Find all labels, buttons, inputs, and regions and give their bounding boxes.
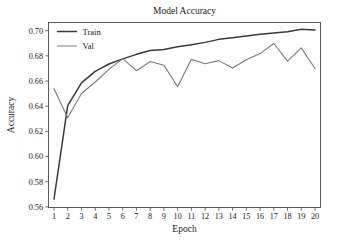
y-tick-label: 0.68: [29, 52, 43, 61]
y-tick-label: 0.64: [29, 102, 43, 111]
legend-label-val: Val: [83, 41, 95, 51]
x-tick-label: 1: [52, 212, 56, 221]
y-tick-label: 0.60: [29, 152, 43, 161]
y-tick-label: 0.66: [29, 77, 43, 86]
x-tick-label: 18: [283, 212, 291, 221]
series-line-train: [54, 29, 315, 199]
x-tick-label: 17: [270, 212, 278, 221]
x-tick-label: 14: [228, 212, 236, 221]
y-tick-label: 0.62: [29, 127, 43, 136]
x-tick-label: 7: [134, 212, 138, 221]
x-tick-label: 15: [242, 212, 250, 221]
x-tick-label: 11: [187, 212, 195, 221]
x-axis: 1234567891011121314151617181920: [52, 208, 319, 222]
legend: TrainVal: [58, 27, 102, 52]
x-tick-label: 3: [79, 212, 83, 221]
x-tick-label: 10: [174, 212, 182, 221]
legend-label-train: Train: [83, 27, 102, 37]
chart-title: Model Accuracy: [153, 6, 216, 16]
x-tick-label: 5: [107, 212, 111, 221]
x-tick-label: 2: [66, 212, 70, 221]
x-tick-label: 12: [201, 212, 209, 221]
y-axis: 0.560.580.600.620.640.660.680.70: [29, 27, 49, 212]
y-tick-label: 0.70: [29, 27, 43, 36]
x-tick-label: 6: [121, 212, 125, 221]
x-tick-label: 4: [93, 212, 97, 221]
chart-figure: 0.560.580.600.620.640.660.680.7012345678…: [0, 0, 339, 246]
x-tick-label: 13: [215, 212, 223, 221]
x-tick-label: 19: [297, 212, 305, 221]
series-line-val: [54, 44, 315, 118]
x-tick-label: 8: [148, 212, 152, 221]
y-tick-label: 0.56: [29, 203, 43, 212]
x-tick-label: 20: [311, 212, 319, 221]
x-tick-label: 16: [256, 212, 264, 221]
x-tick-label: 9: [162, 212, 166, 221]
y-axis-label: Accuracy: [6, 97, 16, 134]
x-axis-label: Epoch: [172, 224, 197, 234]
y-tick-label: 0.58: [29, 178, 43, 187]
model-accuracy-line-chart: 0.560.580.600.620.640.660.680.7012345678…: [0, 0, 339, 246]
